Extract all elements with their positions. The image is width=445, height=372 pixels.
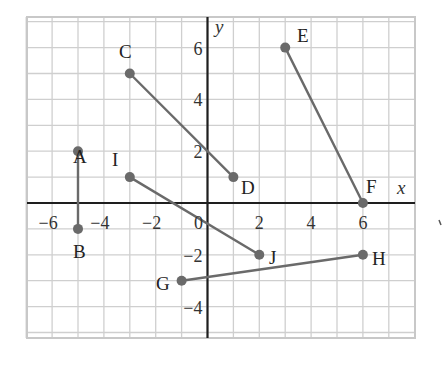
x-tick-label: 0 — [194, 213, 203, 233]
point-c — [125, 69, 135, 79]
segments — [78, 48, 363, 281]
y-tick-label: −4 — [183, 298, 202, 318]
x-tick-label: 6 — [358, 213, 367, 233]
point-g — [177, 276, 187, 286]
y-axis-label: y — [213, 16, 224, 37]
point-f — [358, 198, 368, 208]
point-i — [125, 172, 135, 182]
point-label-b: B — [73, 241, 86, 262]
coordinate-plane: −6−4−20246642−2−4 y x A B C D E F I J G … — [0, 0, 445, 372]
grid — [26, 17, 415, 338]
x-axis-label: x — [396, 177, 406, 198]
point-label-f: F — [366, 176, 377, 197]
x-tick-label: −6 — [39, 213, 58, 233]
point-label-i: I — [112, 149, 118, 170]
point-e — [280, 43, 290, 53]
y-tick-label: 6 — [194, 39, 203, 59]
point-d — [228, 172, 238, 182]
x-tick-label: −4 — [90, 213, 109, 233]
point-b — [73, 224, 83, 234]
point-label-d: D — [241, 177, 255, 198]
point-h — [358, 250, 368, 260]
x-tick-label: 2 — [255, 213, 264, 233]
y-tick-label: 2 — [194, 142, 203, 162]
x-tick-label: 4 — [307, 213, 316, 233]
point-label-c: C — [119, 41, 132, 62]
point-label-h: H — [372, 248, 386, 269]
point-label-e: E — [297, 25, 309, 46]
stray-mark — [439, 220, 441, 225]
point-label-g: G — [156, 273, 170, 294]
point-label-a: A — [73, 146, 87, 167]
x-tick-label: −2 — [142, 213, 161, 233]
tick-labels: −6−4−20246642−2−4 — [39, 39, 368, 318]
point-j — [254, 250, 264, 260]
y-tick-label: −2 — [183, 246, 202, 266]
y-tick-label: 4 — [194, 90, 203, 110]
point-label-j: J — [269, 247, 276, 268]
